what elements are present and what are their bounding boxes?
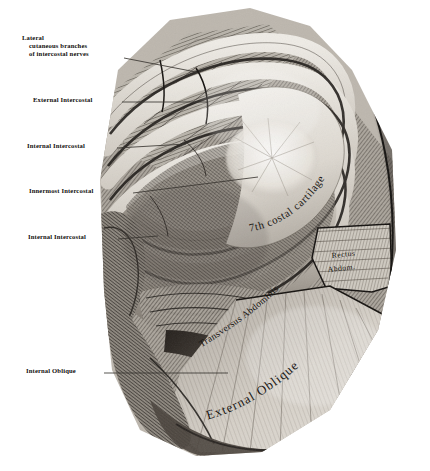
label-internal-intercostal-upper: Internal Intercostal [27, 142, 85, 150]
label-internal-intercostal-lower: Internal Intercostal [28, 233, 86, 241]
label-innermost-intercostal: Innermost Intercostal [29, 187, 93, 195]
label-line-1: Lateral [22, 34, 44, 41]
label-line-3: of intercostal nerves [22, 50, 130, 58]
label-internal-oblique: Internal Oblique [26, 367, 76, 375]
label-line-2: cutaneous branches [22, 42, 130, 50]
label-lateral-cutaneous-branches: Lateral cutaneous branches of intercosta… [22, 34, 130, 57]
anatomical-plate: 7th costal cartilage Transversus Abdomin… [0, 0, 430, 471]
label-external-intercostal: External Intercostal [33, 96, 92, 104]
